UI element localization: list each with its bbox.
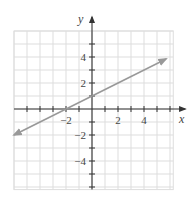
- y-axis-label: y: [77, 12, 84, 26]
- x-tick-label: 2: [115, 114, 121, 126]
- coordinate-plane: −22442−2−4 x y: [0, 0, 195, 200]
- y-tick-label: 4: [81, 51, 87, 63]
- grid: [14, 31, 173, 190]
- x-tick-label: −2: [60, 114, 72, 126]
- x-axis-label: x: [178, 112, 185, 126]
- y-tick-label: −2: [74, 129, 86, 141]
- x-tick-label: 4: [141, 114, 147, 126]
- ticks: −22442−2−4: [27, 44, 170, 187]
- y-tick-label: 2: [81, 77, 87, 89]
- y-tick-label: −4: [74, 155, 86, 167]
- grid-border: [14, 31, 173, 190]
